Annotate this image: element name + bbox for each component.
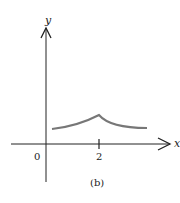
graph: y x 0 2 (b) bbox=[0, 0, 180, 203]
y-axis-label: y bbox=[44, 14, 52, 27]
tick-label-2: 2 bbox=[96, 151, 102, 162]
figure-caption: (b) bbox=[90, 177, 104, 188]
origin-label: 0 bbox=[34, 151, 40, 162]
function-curve bbox=[52, 115, 147, 129]
x-axis-label: x bbox=[174, 137, 180, 150]
